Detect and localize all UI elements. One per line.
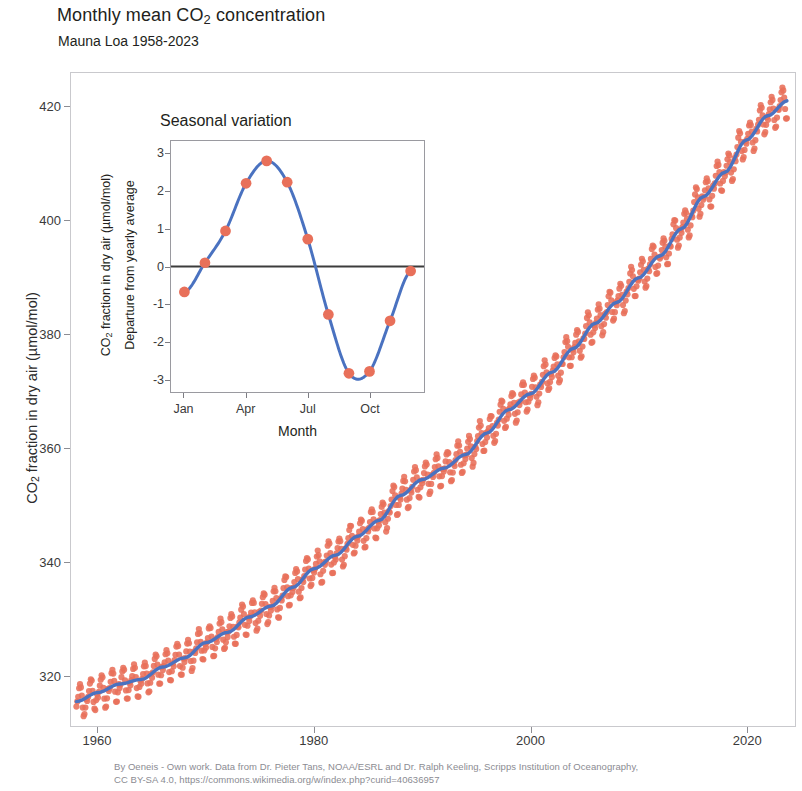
monthly-data-point xyxy=(687,232,693,238)
monthly-data-point xyxy=(212,645,218,651)
monthly-data-point xyxy=(406,504,412,510)
monthly-data-point xyxy=(643,283,649,289)
inset-y-tick-label: -1 xyxy=(142,297,164,311)
monthly-data-point xyxy=(698,202,704,208)
monthly-data-point xyxy=(633,283,639,289)
inset-y-axis-label-pre: CO xyxy=(99,337,113,356)
main-y-axis-label: CO2 fraction in dry air (µmol/mol) xyxy=(24,248,40,548)
main-y-tick-label: 340 xyxy=(23,554,61,569)
monthly-data-point xyxy=(333,556,339,562)
main-y-tick-mark xyxy=(64,448,70,449)
inset-y-tick-mark xyxy=(165,342,170,343)
monthly-data-point xyxy=(251,600,257,606)
monthly-data-point xyxy=(488,413,494,419)
inset-monthly-marker xyxy=(200,257,211,268)
monthly-data-point xyxy=(578,353,584,359)
main-y-tick-label: 320 xyxy=(23,668,61,683)
monthly-data-point xyxy=(352,549,358,555)
title-text-post: concentration xyxy=(211,5,325,25)
monthly-data-point xyxy=(298,585,304,591)
monthly-data-point xyxy=(229,613,235,619)
inset-y-axis-label-subscript: 2 xyxy=(104,332,114,337)
main-y-tick-label: 380 xyxy=(23,327,61,342)
monthly-data-point xyxy=(557,377,563,383)
monthly-data-point xyxy=(337,538,343,544)
inset-monthly-marker xyxy=(385,315,396,326)
monthly-data-point xyxy=(157,680,163,686)
main-x-tick-mark xyxy=(97,727,98,733)
monthly-data-point xyxy=(352,543,358,549)
monthly-data-point xyxy=(503,424,509,430)
inset-y-tick-mark xyxy=(165,191,170,192)
monthly-data-point xyxy=(719,188,725,194)
main-y-tick-mark xyxy=(64,220,70,221)
inset-y-tick-label: -3 xyxy=(142,373,164,387)
monthly-data-point xyxy=(449,477,455,483)
monthly-data-point xyxy=(153,653,159,659)
monthly-data-point xyxy=(467,436,473,442)
monthly-data-point xyxy=(611,316,617,322)
monthly-data-point xyxy=(705,178,711,184)
monthly-data-point xyxy=(234,632,240,638)
inset-x-tick-mark xyxy=(183,393,184,398)
monthly-data-point xyxy=(132,665,138,671)
inset-monthly-marker xyxy=(241,178,252,189)
main-x-tick-label: 1960 xyxy=(83,733,112,748)
monthly-data-point xyxy=(568,363,574,369)
monthly-data-point xyxy=(521,382,527,388)
co2-figure: Monthly mean CO2 concentration Mauna Loa… xyxy=(0,0,802,791)
caption-line-1: By Oeneis - Own work. Data from Dr. Piet… xyxy=(114,761,638,774)
monthly-data-point xyxy=(493,431,499,437)
monthly-data-point xyxy=(265,619,271,625)
monthly-data-point xyxy=(99,674,105,680)
monthly-data-point xyxy=(514,417,520,423)
monthly-data-point xyxy=(395,511,401,517)
monthly-data-point xyxy=(180,665,186,671)
page-subtitle: Mauna Loa 1958-2023 xyxy=(58,33,199,49)
monthly-data-point xyxy=(384,525,390,531)
inset-monthly-marker xyxy=(261,155,272,166)
monthly-data-point xyxy=(456,442,462,448)
monthly-data-point xyxy=(499,398,505,404)
monthly-data-point xyxy=(612,309,618,315)
monthly-data-point xyxy=(203,644,209,650)
monthly-data-point xyxy=(708,203,714,209)
monthly-data-point xyxy=(575,329,581,335)
monthly-data-point xyxy=(82,704,88,710)
monthly-data-point xyxy=(135,694,141,700)
monthly-data-point xyxy=(186,640,192,646)
inset-seasonal-curve xyxy=(184,161,410,379)
monthly-data-point xyxy=(316,552,322,558)
monthly-data-point xyxy=(651,244,657,250)
inset-monthly-marker xyxy=(323,309,334,320)
monthly-data-point xyxy=(294,568,300,574)
monthly-data-point xyxy=(240,603,246,609)
monthly-data-point xyxy=(737,130,743,136)
main-x-tick-label: 1980 xyxy=(299,733,328,748)
monthly-data-point xyxy=(114,698,120,704)
monthly-data-point xyxy=(319,579,325,585)
monthly-data-point xyxy=(143,663,149,669)
monthly-data-point xyxy=(158,672,164,678)
monthly-data-point xyxy=(428,481,434,487)
monthly-data-point xyxy=(197,630,203,636)
monthly-data-point xyxy=(784,115,790,121)
monthly-data-point xyxy=(622,308,628,314)
monthly-data-point xyxy=(676,242,682,248)
monthly-data-point xyxy=(752,137,758,143)
monthly-data-point xyxy=(515,409,521,415)
monthly-data-point xyxy=(342,553,348,559)
monthly-data-point xyxy=(586,312,592,318)
monthly-data-point xyxy=(320,568,326,574)
main-y-tick-label: 420 xyxy=(23,99,61,114)
main-y-tick-mark xyxy=(64,334,70,335)
monthly-data-point xyxy=(92,707,98,713)
monthly-data-point xyxy=(481,448,487,454)
inset-x-tick-mark xyxy=(370,393,371,398)
monthly-data-point xyxy=(330,570,336,576)
monthly-data-point xyxy=(741,154,747,160)
monthly-data-point xyxy=(600,329,606,335)
monthly-data-point xyxy=(326,541,332,547)
monthly-data-point xyxy=(277,605,283,611)
inset-x-tick-label: Apr xyxy=(236,402,255,416)
